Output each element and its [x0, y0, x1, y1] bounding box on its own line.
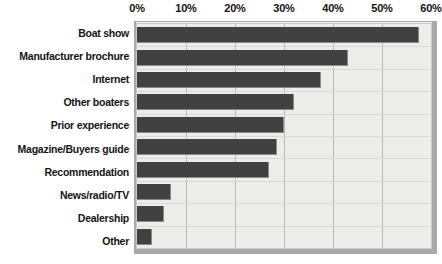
x-axis-tick-label: 60% [420, 2, 441, 14]
bar-row [137, 91, 431, 113]
y-axis-category-label: Internet [0, 67, 134, 90]
x-axis-tick-label: 40% [322, 2, 343, 14]
bar [137, 229, 152, 245]
y-axis-category-label: Boat show [0, 21, 134, 44]
bar [137, 72, 321, 88]
bar-row [137, 24, 431, 46]
x-axis-tick-labels: 0%10%20%30%40%50%60% [0, 0, 440, 20]
bars-layer [137, 24, 431, 248]
bar-row [137, 136, 431, 158]
bar [137, 184, 171, 200]
bar [137, 206, 164, 222]
bar-row [137, 181, 431, 203]
y-axis-category-label: News/radio/TV [0, 183, 134, 206]
bar-row [137, 203, 431, 225]
plot-frame [134, 21, 437, 254]
y-axis-category-label: Other boaters [0, 91, 134, 114]
bar-row [137, 158, 431, 180]
bar-row [137, 69, 431, 91]
bar [137, 117, 284, 133]
gridline-vertical [431, 24, 432, 248]
x-axis-tick-label: 30% [273, 2, 294, 14]
x-axis-tick-label: 50% [371, 2, 392, 14]
bar [137, 94, 294, 110]
y-axis-category-label: Magazine/Buyers guide [0, 137, 134, 160]
y-axis-category-label: Manufacturer brochure [0, 44, 134, 67]
x-axis-tick-label: 10% [175, 2, 196, 14]
y-axis-category-label: Recommendation [0, 160, 134, 183]
bar [137, 27, 419, 43]
bar [137, 162, 269, 178]
x-axis-tick-label: 20% [224, 2, 245, 14]
bar-row [137, 114, 431, 136]
plot-area [136, 23, 432, 249]
y-axis-category-label: Dealership [0, 207, 134, 230]
y-axis-category-labels: Boat showManufacturer brochureInternetOt… [0, 21, 134, 253]
bar-row [137, 46, 431, 68]
bar [137, 50, 348, 66]
bar [137, 139, 277, 155]
bar-row [137, 226, 431, 248]
y-axis-category-label: Other [0, 230, 134, 253]
x-axis-tick-label: 0% [129, 2, 145, 14]
y-axis-category-label: Prior experience [0, 114, 134, 137]
